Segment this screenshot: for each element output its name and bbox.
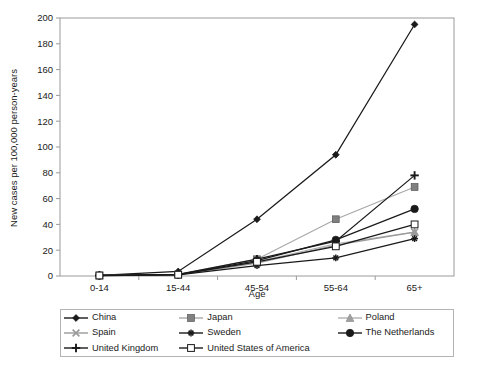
y-tick-label: 80 [42, 167, 53, 178]
data-point-marker-square-filled [188, 314, 195, 321]
legend-item-united-states-of-america[interactable]: United States of America [176, 341, 334, 356]
line-chart-svg: New cases per 100,000 person-years 02040… [0, 0, 486, 300]
y-tick-label: 140 [37, 90, 53, 101]
series-poland [96, 228, 419, 279]
legend-marker-asterisk [178, 327, 204, 339]
data-point-marker-asterisk [411, 235, 418, 242]
x-tick-label: 15-44 [166, 282, 190, 293]
legend-item-spain[interactable]: Spain [61, 325, 176, 340]
legend-marker-square-filled [178, 312, 204, 324]
legend-marker-x [63, 327, 89, 339]
legend-label: Poland [366, 312, 395, 323]
legend-marker-circle-filled [337, 327, 363, 339]
data-point-marker-plus [72, 344, 80, 352]
y-tick-label: 0 [48, 270, 53, 281]
legend-label: United States of America [207, 343, 309, 354]
legend-item-empty [335, 341, 453, 356]
legend-label: United Kingdom [92, 343, 158, 354]
legend-label: Japan [207, 312, 232, 323]
legend-marker-diamond [63, 312, 89, 324]
data-series-layer [95, 21, 419, 280]
y-tick-label: 40 [42, 219, 53, 230]
chart-legend: ChinaJapanPolandSpainSwedenThe Netherlan… [60, 309, 454, 357]
x-axis-title-text: Age [249, 288, 266, 299]
data-point-marker-circle-filled [411, 205, 418, 212]
y-axis-ticks: 020406080100120140160180200 [37, 12, 60, 281]
legend-label: Spain [92, 327, 116, 338]
legend-item-united-kingdom[interactable]: United Kingdom [61, 341, 176, 356]
legend-row: United KingdomUnited States of America [61, 341, 453, 356]
data-point-marker-square-open [188, 345, 195, 352]
data-point-marker-diamond [411, 21, 418, 28]
legend-label: China [92, 312, 116, 323]
data-point-marker-diamond [73, 314, 80, 321]
data-point-marker-square-open [96, 272, 103, 279]
y-tick-label: 100 [37, 141, 53, 152]
legend-marker-square-open [178, 342, 204, 354]
legend-row: SpainSwedenThe Netherlands [61, 325, 453, 340]
data-point-marker-square-filled [332, 216, 339, 223]
legend-row: ChinaJapanPoland [61, 310, 453, 325]
legend-table: ChinaJapanPolandSpainSwedenThe Netherlan… [61, 310, 453, 356]
y-tick-label: 200 [37, 12, 53, 23]
data-point-marker-square-open [175, 271, 182, 278]
legend-item-japan[interactable]: Japan [176, 310, 334, 325]
y-tick-label: 60 [42, 193, 53, 204]
x-tick-label: 65+ [407, 282, 424, 293]
y-tick-label: 160 [37, 64, 53, 75]
legend-label: The Netherlands [366, 327, 435, 338]
chart-plot-area: New cases per 100,000 person-years 02040… [0, 0, 486, 300]
legend-item-the-netherlands[interactable]: The Netherlands [335, 325, 453, 340]
series-line [99, 232, 414, 275]
data-point-marker-circle-filled [346, 329, 353, 336]
x-tick-label: 55-64 [324, 282, 348, 293]
data-point-marker-asterisk [188, 330, 195, 337]
chart-figure: New cases per 100,000 person-years 02040… [0, 0, 486, 376]
data-point-marker-square-open [254, 258, 261, 265]
legend-item-sweden[interactable]: Sweden [176, 325, 334, 340]
data-point-marker-square-open [332, 243, 339, 250]
legend-item-poland[interactable]: Poland [335, 310, 453, 325]
y-tick-label: 20 [42, 245, 53, 256]
legend-marker-triangle [337, 312, 363, 324]
legend-marker-plus [63, 342, 89, 354]
legend-label: Sweden [207, 327, 241, 338]
legend-item-china[interactable]: China [61, 310, 176, 325]
x-tick-label: 0-14 [90, 282, 109, 293]
data-point-marker-square-open [411, 221, 418, 228]
y-axis-title: New cases per 100,000 person-years [8, 69, 19, 227]
data-point-marker-asterisk [332, 255, 339, 262]
y-tick-label: 180 [37, 38, 53, 49]
y-tick-label: 120 [37, 116, 53, 127]
y-axis-title-text: New cases per 100,000 person-years [8, 69, 19, 227]
data-point-marker-square-filled [411, 184, 418, 191]
